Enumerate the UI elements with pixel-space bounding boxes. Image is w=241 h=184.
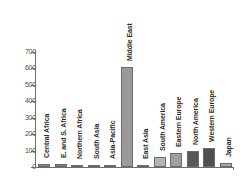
- bar-label: Asia-Pacific: [109, 120, 116, 159]
- bar-group: Japan: [220, 40, 232, 167]
- y-axis-tick-label: 100: [10, 147, 36, 154]
- bar-series: Central AfricaE. and S. AfricaNorthern A…: [36, 40, 234, 167]
- bar-label: Central Africa: [43, 114, 50, 158]
- y-axis-tick-label: 400: [10, 97, 36, 104]
- x-axis-end-tick: [233, 167, 234, 170]
- bar: [88, 165, 100, 167]
- y-axis-tick-label: 0: [10, 163, 36, 170]
- bar-label: South America: [159, 103, 166, 151]
- bar-group: South America: [154, 40, 166, 167]
- bar-label: Northern Africa: [76, 109, 83, 159]
- bar-group: Middle East: [121, 40, 133, 167]
- y-axis-tick-label: 300: [10, 114, 36, 121]
- bar-group: Northern Africa: [71, 40, 83, 167]
- bar: [71, 165, 83, 167]
- bar: [203, 148, 215, 167]
- bar-group: North America: [187, 40, 199, 167]
- bar-group: South Asia: [88, 40, 100, 167]
- bar-group: Eastern Europe: [170, 40, 182, 167]
- bar-label: South Asia: [93, 124, 100, 159]
- bar-chart: 0100200300400500600700 Central AfricaE. …: [0, 0, 241, 184]
- y-axis-tick-label: 700: [10, 48, 36, 55]
- bar-group: E. and S. Africa: [55, 40, 67, 167]
- bar-group: Western Europe: [203, 40, 215, 167]
- bar: [104, 165, 116, 167]
- bar-label: Middle East: [126, 23, 133, 61]
- x-axis-line: [35, 167, 234, 168]
- bar: [121, 67, 133, 167]
- y-axis-tick-label: 600: [10, 64, 36, 71]
- bar: [187, 151, 199, 167]
- bar: [38, 164, 50, 167]
- bar-label: East Asia: [142, 129, 149, 159]
- bar-label: E. and S. Africa: [60, 109, 67, 159]
- bar: [154, 157, 166, 167]
- bar: [170, 153, 182, 167]
- bar: [137, 165, 149, 167]
- bar-group: Asia-Pacific: [104, 40, 116, 167]
- bar-group: Central Africa: [38, 40, 50, 167]
- bar: [55, 164, 67, 167]
- y-axis-tick-label: 500: [10, 81, 36, 88]
- y-axis-ticks: 0100200300400500600700: [0, 0, 36, 184]
- bar-label: Western Europe: [208, 90, 215, 142]
- bar: [220, 163, 232, 167]
- y-axis-tick-label: 200: [10, 130, 36, 137]
- bar-label: North America: [192, 98, 199, 145]
- bar-label: Japan: [225, 138, 232, 158]
- bar-group: East Asia: [137, 40, 149, 167]
- bar-label: Eastern Europe: [175, 97, 182, 147]
